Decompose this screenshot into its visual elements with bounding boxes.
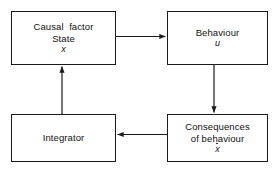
node-causal-factor-symbol: x — [61, 44, 66, 55]
node-causal-factor[interactable]: Causal factor State x — [11, 11, 116, 65]
node-consequences-line1: Consequences — [185, 121, 250, 133]
node-behaviour-line1: Behaviour — [196, 27, 240, 39]
node-causal-factor-line1: Causal factor — [33, 21, 93, 33]
node-behaviour-symbol: u — [215, 38, 220, 49]
node-behaviour[interactable]: Behaviour u — [167, 11, 268, 65]
node-integrator-line1: Integrator — [43, 132, 85, 144]
node-integrator[interactable]: Integrator — [11, 114, 116, 162]
node-consequences[interactable]: Consequences of behaviour x — [167, 114, 268, 162]
node-causal-factor-line2: State — [52, 33, 75, 45]
node-consequences-symbol: x — [215, 144, 220, 155]
block-diagram: Causal factor State x Behaviour u Conseq… — [0, 0, 279, 172]
